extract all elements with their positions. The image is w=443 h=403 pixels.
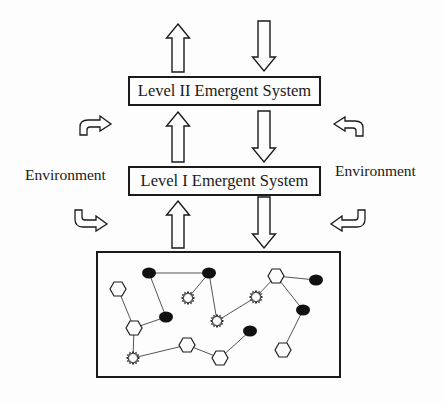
curved-arrow-top-left-icon	[80, 116, 111, 135]
arrow-up-icon	[167, 112, 190, 162]
environment-label-right: Environment	[335, 162, 416, 180]
agent-node-ellipse-icon	[243, 326, 257, 337]
agent-node-ellipse-icon	[309, 275, 323, 286]
arrow-up-icon	[167, 24, 190, 72]
agent-node-hexagon-icon	[110, 282, 126, 296]
diagram-canvas	[0, 0, 443, 403]
environment-label-left: Environment	[25, 166, 106, 184]
curved-arrow-top-right-icon	[334, 117, 363, 136]
level-1-label: Level I Emergent System	[141, 171, 309, 191]
agent-node-ellipse-icon	[296, 305, 310, 316]
vertical-arrows	[167, 21, 276, 248]
level-2-emergent-system-box: Level II Emergent System	[128, 76, 321, 106]
arrow-down-icon	[253, 111, 276, 162]
level-1-emergent-system-box: Level I Emergent System	[128, 166, 321, 196]
agent-node-ellipse-icon	[159, 312, 173, 323]
agent-node-hexagon-icon	[268, 269, 284, 283]
agent-node-hexagon-icon	[126, 321, 142, 335]
agent-node-hexagon-icon	[179, 338, 195, 352]
curved-arrow-bottom-left-icon	[75, 210, 107, 231]
emergent-systems-diagram: Level II Emergent System Level I Emergen…	[0, 0, 443, 403]
agent-node-ellipse-icon	[142, 268, 156, 279]
arrow-up-icon	[167, 201, 190, 248]
curved-arrow-bottom-right-icon	[331, 210, 365, 231]
agent-node-hexagon-icon	[212, 351, 228, 365]
arrow-down-icon	[253, 21, 276, 71]
agent-node-ellipse-icon	[202, 268, 216, 279]
agent-node-hexagon-icon	[275, 343, 291, 357]
arrow-down-icon	[253, 197, 276, 248]
level-2-label: Level II Emergent System	[138, 81, 311, 101]
